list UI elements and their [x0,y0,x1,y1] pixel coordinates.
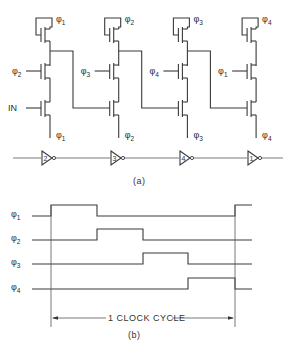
precharge-transistor [247,27,256,43]
inverter-bubble-icon [258,156,261,159]
timing-diagram: φ1φ2φ3φ41 CLOCK CYCLE [11,205,252,327]
precharge-transistor [110,27,119,43]
precharge-loop [105,18,121,35]
clock-phi4: φ4 [11,278,252,294]
arrowhead-right-icon [228,316,234,319]
gate-clock-label: φ2 [12,66,22,78]
inverter-4: 4 [179,150,194,166]
output-to-next-stage-wire [50,51,110,108]
inverter-phase-label: 3 [113,155,117,162]
inverter-phase-label: 4 [182,155,186,162]
inverter-phase-label: 1 [250,155,254,162]
caption-b: (b) [128,330,141,340]
gate-transistor [41,63,50,80]
precharge-loop [173,18,189,35]
input-transistor [41,100,50,117]
input-transistor [178,100,187,117]
arrowhead-left-icon [52,316,58,319]
clock-waveform [32,205,252,216]
precharge-transistor [41,27,50,43]
stage-1: φ1φ2φ1IN [8,14,110,142]
precharge-loop [36,18,52,35]
inverter-3: 3 [110,150,125,166]
source-clock-label: φ2 [125,130,135,142]
four-phase-dynamic-logic-figure: φ1φ2φ1INφ2φ3φ2φ3φ4φ3φ4φ1φ4 2341 (a) φ1φ2… [0,0,304,347]
clock-label-phi3: φ3 [11,257,21,269]
precharge-transistor [178,27,187,43]
clock-waveform [32,278,252,289]
gate-clock-label: φ4 [149,66,159,78]
stage-2: φ2φ3φ2 [81,14,179,142]
input-label: IN [8,103,17,113]
inverter-chain: 2341 [13,150,283,166]
precharge-clock-label: φ2 [125,14,135,26]
stage-4: φ4φ1φ4 [218,14,272,142]
clock-waveform [32,229,252,240]
gate-transistor [110,63,119,80]
inverter-bubble-icon [121,156,124,159]
precharge-loop [242,18,258,35]
gate-clock-label: φ3 [81,66,91,78]
source-clock-label: φ3 [193,130,203,142]
precharge-clock-label: φ1 [56,14,66,26]
clock-label-phi2: φ2 [11,233,21,245]
clock-phi1: φ1 [11,205,252,221]
inverter-bubble-icon [52,156,55,159]
precharge-clock-label: φ4 [262,14,272,26]
input-transistor [110,100,119,117]
source-clock-label: φ1 [56,130,66,142]
inverter-1: 1 [247,150,262,166]
inverter-bubble-icon [190,156,193,159]
input-transistor [247,100,256,117]
transistor-stages: φ1φ2φ1INφ2φ3φ2φ3φ4φ3φ4φ1φ4 [8,14,272,142]
clock-label-phi1: φ1 [11,209,21,221]
cycle-label: 1 CLOCK CYCLE [108,313,186,323]
inverter-phase-label: 2 [44,155,48,162]
output-to-next-stage-wire [119,51,179,108]
inverter-2: 2 [41,150,56,166]
gate-transistor [247,63,256,80]
clock-waveform [32,253,252,264]
clock-phi3: φ3 [11,253,252,269]
gate-transistor [178,63,187,80]
source-clock-label: φ4 [262,130,272,142]
clock-phi2: φ2 [11,229,252,245]
clock-label-phi4: φ4 [11,282,21,294]
stage-3: φ3φ4φ3 [149,14,247,142]
caption-a: (a) [133,176,146,186]
gate-clock-label: φ1 [218,66,228,78]
precharge-clock-label: φ3 [193,14,203,26]
output-to-next-stage-wire [187,51,247,108]
